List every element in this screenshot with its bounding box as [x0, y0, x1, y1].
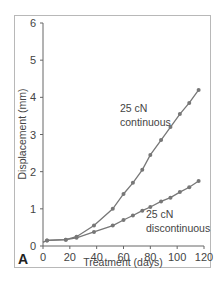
data-point — [122, 218, 126, 222]
x-axis-label: Treatment (days) — [83, 256, 163, 268]
data-point — [197, 179, 201, 183]
y-tick-label: 5 — [30, 54, 36, 66]
y-tick-label: 3 — [30, 129, 36, 141]
data-point — [187, 185, 191, 189]
annotation-continuous-line1: 25 cN — [120, 102, 147, 114]
panel-label: A — [18, 251, 28, 267]
data-point — [131, 214, 135, 218]
data-point — [178, 190, 182, 194]
data-point — [159, 199, 163, 203]
x-tick-label: 0 — [40, 251, 46, 263]
x-tick-label: 20 — [64, 251, 76, 263]
y-tick-label: 2 — [30, 166, 36, 178]
y-tick-label: 1 — [30, 203, 36, 215]
x-tick-label: 120 — [195, 251, 213, 263]
data-point — [111, 224, 115, 228]
y-tick-label: 6 — [30, 17, 36, 29]
annotation-discontinuous-line2: discontinuous — [146, 222, 210, 234]
data-point — [92, 224, 96, 228]
data-point — [140, 209, 144, 213]
data-point — [187, 101, 191, 105]
data-point — [75, 236, 79, 240]
data-point — [197, 88, 201, 92]
data-point — [45, 238, 49, 242]
data-point — [122, 192, 126, 196]
annotation-continuous-line2: continuous — [120, 116, 171, 128]
data-point — [159, 138, 163, 142]
annotation-discontinuous-line1: 25 cN — [146, 208, 173, 220]
y-tick-label: 4 — [30, 91, 36, 103]
y-tick-label: 0 — [30, 240, 36, 252]
data-point — [111, 207, 115, 211]
data-point — [140, 168, 144, 172]
line-chart: 0123456020406080100120 25 cN continuous … — [0, 0, 224, 286]
data-point — [92, 230, 96, 234]
data-point — [148, 153, 152, 157]
data-point — [131, 181, 135, 185]
data-point — [64, 238, 68, 242]
x-tick-label: 100 — [168, 251, 186, 263]
y-axis-label: Displacement (mm) — [16, 88, 28, 179]
data-point — [168, 196, 172, 200]
data-point — [178, 112, 182, 116]
